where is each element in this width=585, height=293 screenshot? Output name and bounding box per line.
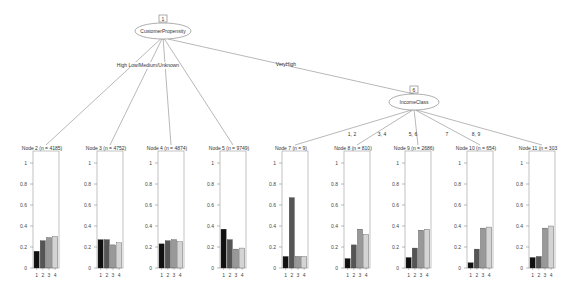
y-tick-label: 1 bbox=[88, 160, 91, 166]
y-tick-label: 0.6 bbox=[269, 202, 276, 208]
bar-class-2 bbox=[536, 256, 541, 268]
y-tick-label: 0.4 bbox=[20, 223, 27, 229]
bar-class-1 bbox=[98, 240, 103, 268]
edge-label: 3, 4 bbox=[378, 131, 387, 137]
y-tick-label: 0.2 bbox=[20, 244, 27, 250]
y-tick-label: 0.4 bbox=[516, 223, 523, 229]
bar-class-4 bbox=[487, 227, 492, 268]
y-tick-label: 0 bbox=[211, 265, 214, 271]
y-tick-label: 0.6 bbox=[207, 202, 214, 208]
terminal-panel-node-5: Node 5 (n = 9749)00.20.40.60.811234 bbox=[207, 145, 250, 278]
y-tick-label: 0 bbox=[88, 265, 91, 271]
y-tick-label: 0.6 bbox=[516, 202, 523, 208]
node-variable-label: CustomerPropensity bbox=[140, 28, 186, 34]
bar-class-2 bbox=[40, 241, 45, 268]
x-tick-label: 1 bbox=[469, 272, 472, 278]
y-tick-label: 0.6 bbox=[331, 202, 338, 208]
terminal-panel-node-9: Node 9 (n = 2686)00.20.40.60.811234 bbox=[392, 145, 435, 278]
bar-class-4 bbox=[53, 237, 58, 269]
y-tick-label: 0.4 bbox=[145, 223, 152, 229]
y-tick-label: 0.2 bbox=[84, 244, 91, 250]
y-tick-label: 0.6 bbox=[84, 202, 91, 208]
bar-class-2 bbox=[227, 240, 232, 268]
y-tick-label: 0.6 bbox=[454, 202, 461, 208]
x-tick-label: 2 bbox=[413, 272, 416, 278]
y-tick-label: 1 bbox=[211, 160, 214, 166]
panel-title: Node 7 (n = 9) bbox=[275, 145, 307, 151]
y-tick-label: 0.6 bbox=[20, 202, 27, 208]
x-tick-label: 4 bbox=[365, 272, 368, 278]
bar-class-4 bbox=[117, 243, 122, 268]
y-tick-label: 0.8 bbox=[207, 181, 214, 187]
edge-label: 5, 6 bbox=[409, 131, 418, 137]
x-tick-label: 1 bbox=[99, 272, 102, 278]
x-tick-label: 4 bbox=[54, 272, 57, 278]
terminal-panel-node-11: Node 11 (n = 30300.20.40.60.811234 bbox=[516, 145, 557, 278]
y-tick-label: 0.2 bbox=[331, 244, 338, 250]
y-tick-label: 1 bbox=[273, 160, 276, 166]
tree-edge bbox=[414, 110, 418, 145]
y-tick-label: 0.2 bbox=[207, 244, 214, 250]
edge-label: 1, 2 bbox=[348, 131, 357, 137]
y-tick-label: 1 bbox=[149, 160, 152, 166]
x-tick-label: 3 bbox=[420, 272, 423, 278]
y-tick-label: 0.2 bbox=[516, 244, 523, 250]
bar-class-1 bbox=[345, 259, 350, 268]
x-tick-label: 3 bbox=[48, 272, 51, 278]
y-tick-label: 1 bbox=[458, 160, 461, 166]
node-id-label: 6 bbox=[413, 87, 416, 93]
bar-class-4 bbox=[364, 234, 369, 268]
panel-title: Node 3 (n = 4752) bbox=[86, 145, 127, 151]
tree-edge bbox=[295, 110, 412, 145]
terminal-panel-node-10: Node 10 (n = 654)00.20.40.60.811234 bbox=[454, 145, 497, 278]
y-tick-label: 0.4 bbox=[269, 223, 276, 229]
edge-label: 8, 9 bbox=[472, 131, 481, 137]
edge-label: 7 bbox=[446, 131, 449, 137]
edge-label-combined: High Low/Medium/Unknown bbox=[117, 62, 179, 68]
bar-class-4 bbox=[425, 229, 430, 268]
bar-class-1 bbox=[283, 256, 288, 268]
tree-edge bbox=[110, 39, 162, 145]
bar-class-2 bbox=[165, 241, 170, 268]
bar-class-3 bbox=[171, 240, 176, 268]
x-tick-label: 2 bbox=[290, 272, 293, 278]
bar-class-1 bbox=[221, 229, 226, 268]
panel-title: Node 10 (n = 654) bbox=[456, 145, 497, 151]
bar-class-4 bbox=[240, 248, 245, 268]
y-tick-label: 0 bbox=[24, 265, 27, 271]
terminal-panel-node-8: Node 8 (n = 810)00.20.40.60.811234 bbox=[331, 145, 372, 278]
node-variable-label: IncomeClass bbox=[400, 99, 429, 105]
y-tick-label: 0.8 bbox=[516, 181, 523, 187]
y-tick-label: 0.6 bbox=[392, 202, 399, 208]
y-tick-label: 1 bbox=[335, 160, 338, 166]
bar-class-1 bbox=[34, 251, 39, 268]
bar-class-1 bbox=[159, 244, 164, 268]
x-tick-label: 3 bbox=[112, 272, 115, 278]
x-tick-label: 2 bbox=[475, 272, 478, 278]
x-tick-label: 3 bbox=[359, 272, 362, 278]
bar-class-2 bbox=[412, 248, 417, 268]
y-tick-label: 0.4 bbox=[454, 223, 461, 229]
bar-class-1 bbox=[468, 263, 473, 268]
x-tick-label: 4 bbox=[488, 272, 491, 278]
x-tick-label: 1 bbox=[160, 272, 163, 278]
x-tick-label: 4 bbox=[426, 272, 429, 278]
x-tick-label: 4 bbox=[118, 272, 121, 278]
y-tick-label: 1 bbox=[396, 160, 399, 166]
node-id-label: 1 bbox=[162, 16, 165, 22]
x-tick-label: 3 bbox=[297, 272, 300, 278]
x-tick-label: 2 bbox=[166, 272, 169, 278]
y-tick-label: 0.4 bbox=[84, 223, 91, 229]
tree-edges: VeryHigh1, 23, 45, 678, 9High Low/Medium… bbox=[46, 39, 542, 145]
y-tick-label: 0.2 bbox=[392, 244, 399, 250]
bar-class-2 bbox=[104, 240, 109, 268]
terminal-panel-node-3: Node 3 (n = 4752)00.20.40.60.811234 bbox=[84, 145, 127, 278]
terminal-panel-node-2: Node 2 (n = 4185)00.20.40.60.811234 bbox=[20, 145, 63, 278]
bar-class-2 bbox=[351, 245, 356, 268]
decision-tree-diagram: VeryHigh1, 23, 45, 678, 9High Low/Medium… bbox=[0, 0, 585, 293]
x-tick-label: 4 bbox=[303, 272, 306, 278]
bar-class-3 bbox=[233, 249, 238, 268]
x-tick-label: 4 bbox=[550, 272, 553, 278]
tree-edge bbox=[163, 39, 171, 145]
tree-edge bbox=[164, 39, 233, 145]
